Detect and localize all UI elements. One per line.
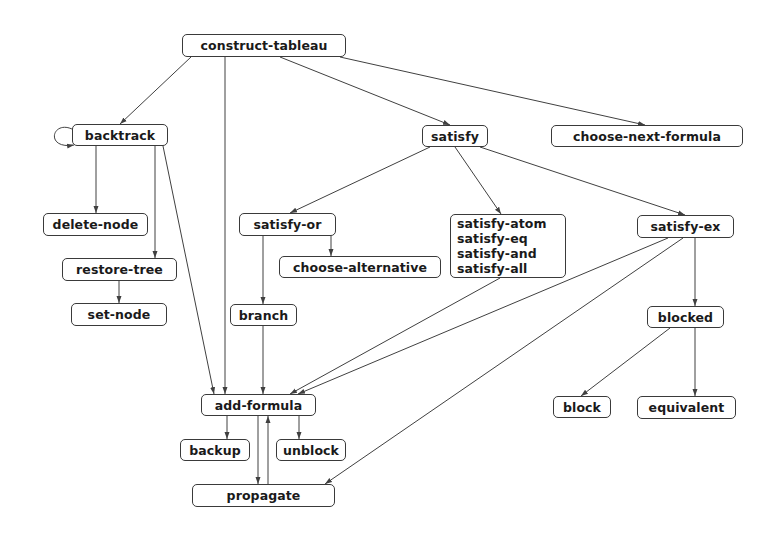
node-label-satisfy-atom: satisfy-atom [457,216,547,231]
edge-construct-tableau-to-choose-next-formula [340,57,645,125]
node-satisfy-or[interactable]: satisfy-or [239,213,336,236]
node-set-node[interactable]: set-node [71,303,167,326]
node-label-satisfy-eq: satisfy-eq [457,231,528,246]
node-label: block [563,400,601,415]
node-satisfy[interactable]: satisfy [422,125,488,147]
edge-construct-tableau-to-backtrack [120,57,191,124]
edge-construct-tableau-to-satisfy [280,57,450,125]
node-backtrack[interactable]: backtrack [72,124,168,146]
node-unblock[interactable]: unblock [276,439,346,461]
node-label: blocked [658,310,713,325]
edge-satisfy-to-satisfy-or [290,147,430,213]
node-label: restore-tree [76,262,163,277]
node-label-satisfy-all: satisfy-all [457,261,527,276]
node-satisfy-ex[interactable]: satisfy-ex [637,215,734,238]
node-label: choose-alternative [293,260,427,275]
edge-satisfy-to-satisfy-ex [480,147,685,215]
node-restore-tree[interactable]: restore-tree [62,258,177,281]
node-label: backtrack [85,128,155,143]
node-choose-alternative[interactable]: choose-alternative [279,256,441,278]
node-label-satisfy-and: satisfy-and [457,246,537,261]
node-label: construct-tableau [200,38,327,53]
node-block[interactable]: block [553,396,611,418]
node-delete-node[interactable]: delete-node [43,213,148,236]
node-label: equivalent [649,400,725,415]
edge-satisfy-group-to-add-formula [290,278,500,394]
node-label: unblock [283,443,339,458]
node-choose-next-formula[interactable]: choose-next-formula [551,125,743,147]
edge-satisfy-to-satisfy-group [455,147,501,214]
node-satisfy-group[interactable]: satisfy-atom satisfy-eq satisfy-and sati… [450,214,566,278]
node-propagate[interactable]: propagate [192,484,335,507]
node-label: satisfy-ex [651,219,721,234]
node-label: branch [239,308,288,323]
node-label: satisfy [431,129,479,144]
node-equivalent[interactable]: equivalent [637,396,736,419]
node-label: delete-node [53,217,139,232]
node-construct-tableau[interactable]: construct-tableau [182,34,346,57]
node-label: propagate [227,488,301,503]
call-graph-diagram: construct-tableau backtrack satisfy choo… [0,0,780,539]
edge-blocked-to-block [581,328,670,396]
node-label: set-node [88,307,151,322]
node-label: choose-next-formula [573,129,721,144]
node-blocked[interactable]: blocked [647,306,724,328]
node-label: backup [189,443,241,458]
node-add-formula[interactable]: add-formula [201,394,316,416]
node-label: add-formula [215,398,302,413]
node-label: satisfy-or [253,217,321,232]
node-branch[interactable]: branch [230,304,297,326]
node-backup[interactable]: backup [180,439,250,461]
